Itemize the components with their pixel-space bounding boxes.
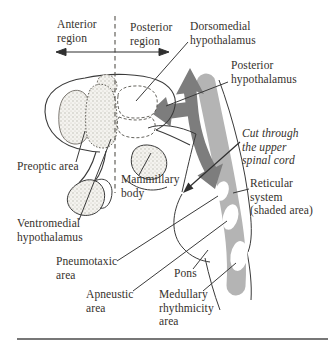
label-posterior-region: Posterior region [130, 21, 172, 48]
label-cut-through-note: Cut through the upper spinal cord [242, 127, 299, 168]
label-posterior-hypothalamus: Posterior hypothalamus [231, 59, 297, 86]
pituitary-blob [67, 179, 112, 215]
region-extent-arrow-icon [56, 48, 169, 55]
leader-pneumotaxic [117, 196, 218, 261]
label-medullary-rhythmicity-area: Medullary rhythmicity area [159, 288, 214, 329]
label-mammillary-body: Mammillary body [121, 173, 180, 200]
label-apneustic-area: Apneustic area [86, 288, 134, 315]
spinal-cord-right-edge [247, 252, 251, 300]
preoptic-lobe [59, 90, 91, 144]
label-anterior-region: Anterior region [57, 18, 97, 45]
label-pons: Pons [174, 267, 197, 281]
label-ventromedial-hypothalamus: Ventromedial hypothalamus [17, 217, 83, 244]
label-preoptic-area: Preoptic area [17, 160, 79, 174]
diagram-stage: Anterior region Posterior region Dorsome… [0, 0, 328, 352]
dorsomedial-lobe [118, 86, 158, 118]
leader-apneustic [133, 221, 227, 291]
middle-lobe [86, 84, 117, 148]
hypothalamic-nuclei [59, 75, 157, 148]
label-dorsomedial-hypothalamus: Dorsomedial hypothalamus [190, 20, 256, 47]
label-pneumotaxic-area: Pneumotaxic area [56, 255, 117, 282]
label-reticular-system: Reticular system (shaded area) [250, 177, 313, 218]
